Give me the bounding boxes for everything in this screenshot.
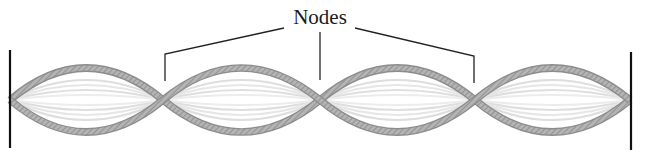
standing-wave-diagram: Nodes xyxy=(0,0,647,163)
nodes-label: Nodes xyxy=(293,5,347,29)
